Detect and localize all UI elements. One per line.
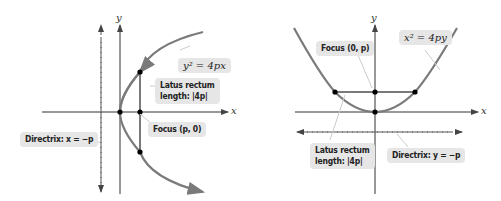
right-focus-label: Focus (0, p) [316, 41, 374, 56]
left-latus-rectum-label: Latus rectum length: |4p| [155, 78, 220, 104]
right-equation-label: x² = 4py [399, 30, 452, 45]
right-directrix-label: Directrix: y = −p [387, 148, 465, 163]
left-x-axis-label: x [231, 105, 237, 116]
latus-line1: Latus rectum [315, 145, 370, 156]
left-directrix-label: Directrix: x = −p [20, 132, 98, 147]
latus-line2: length: |4p| [160, 91, 215, 102]
left-y-axis-label: y [116, 12, 122, 23]
left-parabola [42, 25, 228, 194]
left-equation-label: y² = 4px [178, 58, 231, 73]
left-focus-label: Focus (p, 0) [148, 122, 206, 137]
right-x-axis-label: x [481, 105, 487, 116]
right-y-axis-label: y [371, 12, 377, 23]
latus-line1: Latus rectum [160, 80, 215, 91]
latus-line2: length: |4p| [315, 156, 370, 167]
right-latus-rectum-label: Latus rectum length: |4p| [310, 143, 375, 169]
